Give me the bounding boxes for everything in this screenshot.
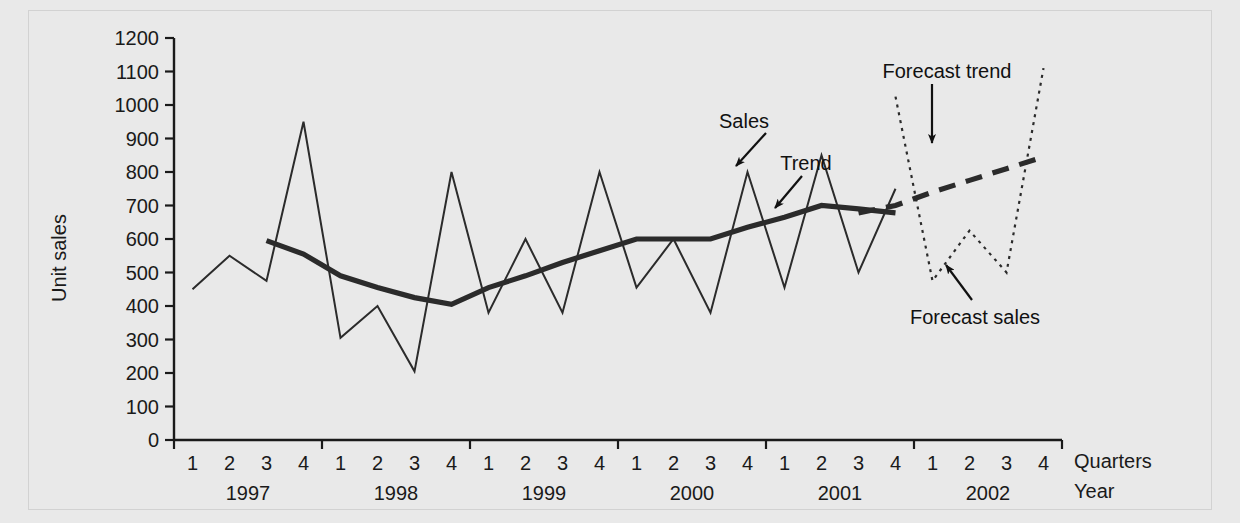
x-quarter-label: 4 (298, 452, 309, 474)
x-year-label: 2000 (670, 482, 715, 504)
figure-container: 0100200300400500600700800900100011001200… (0, 0, 1240, 523)
annotation-forecast-sales: Forecast sales (910, 306, 1040, 328)
x-quarter-label: 2 (816, 452, 827, 474)
series-trend (267, 206, 896, 305)
x-quarter-label: 3 (705, 452, 716, 474)
y-tick-label: 1100 (116, 61, 159, 83)
x-quarter-label: 1 (779, 452, 790, 474)
y-tick-label: 200 (126, 362, 159, 384)
x-axis-year-ticks (174, 440, 1062, 449)
trend-arrow (775, 176, 802, 208)
x-year-label: 2001 (818, 482, 863, 504)
chart-svg: 0100200300400500600700800900100011001200… (0, 0, 1240, 523)
x-axis-year-title: Year (1074, 480, 1115, 502)
y-tick-label: 1200 (115, 27, 160, 49)
x-quarter-label: 1 (335, 452, 346, 474)
x-quarter-label: 4 (742, 452, 753, 474)
x-quarter-label: 2 (520, 452, 531, 474)
x-quarter-label: 4 (594, 452, 605, 474)
annotation-arrows (736, 84, 972, 300)
x-quarter-label: 3 (409, 452, 420, 474)
forecast-sales-arrow (946, 265, 972, 300)
x-quarter-label: 3 (1001, 452, 1012, 474)
annotation-sales: Sales (719, 110, 769, 132)
y-tick-label: 900 (126, 128, 159, 150)
x-axis-year-labels: 199719981999200020012002 (226, 482, 1011, 504)
x-quarter-label: 4 (446, 452, 457, 474)
x-year-label: 2002 (966, 482, 1011, 504)
annotation-forecast-trend: Forecast trend (883, 60, 1012, 82)
x-quarter-label: 4 (1038, 452, 1049, 474)
x-axis-quarter-labels: 123412341234123412341234 (187, 452, 1049, 474)
x-quarter-label: 2 (964, 452, 975, 474)
y-tick-label: 500 (126, 262, 159, 284)
y-tick-label: 1000 (115, 94, 160, 116)
y-axis-tick-labels: 0100200300400500600700800900100011001200 (115, 27, 160, 451)
y-tick-label: 0 (148, 429, 159, 451)
x-year-label: 1999 (522, 482, 567, 504)
y-tick-label: 100 (126, 396, 159, 418)
y-axis-title: Unit sales (48, 214, 70, 302)
x-axis-quarters-title: Quarters (1074, 450, 1152, 472)
y-tick-label: 800 (126, 161, 159, 183)
series-forecast-trend (859, 157, 1044, 213)
x-quarter-label: 3 (261, 452, 272, 474)
x-quarter-label: 1 (187, 452, 198, 474)
series-forecast-sales (896, 68, 1044, 281)
annotation-trend: Trend (780, 152, 832, 174)
y-axis-ticks (165, 38, 174, 440)
x-quarter-label: 1 (927, 452, 938, 474)
x-quarter-label: 1 (483, 452, 494, 474)
x-quarter-label: 2 (224, 452, 235, 474)
x-year-label: 1998 (374, 482, 419, 504)
y-tick-label: 400 (126, 295, 159, 317)
x-quarter-label: 2 (668, 452, 679, 474)
x-quarter-label: 3 (557, 452, 568, 474)
axis-lines (174, 38, 1062, 440)
x-quarter-label: 3 (853, 452, 864, 474)
y-tick-label: 300 (126, 329, 159, 351)
x-quarter-label: 4 (890, 452, 901, 474)
x-quarter-label: 1 (631, 452, 642, 474)
x-year-label: 1997 (226, 482, 271, 504)
y-tick-label: 600 (126, 228, 159, 250)
y-tick-label: 700 (126, 195, 159, 217)
sales-arrow (736, 133, 766, 166)
x-quarter-label: 2 (372, 452, 383, 474)
